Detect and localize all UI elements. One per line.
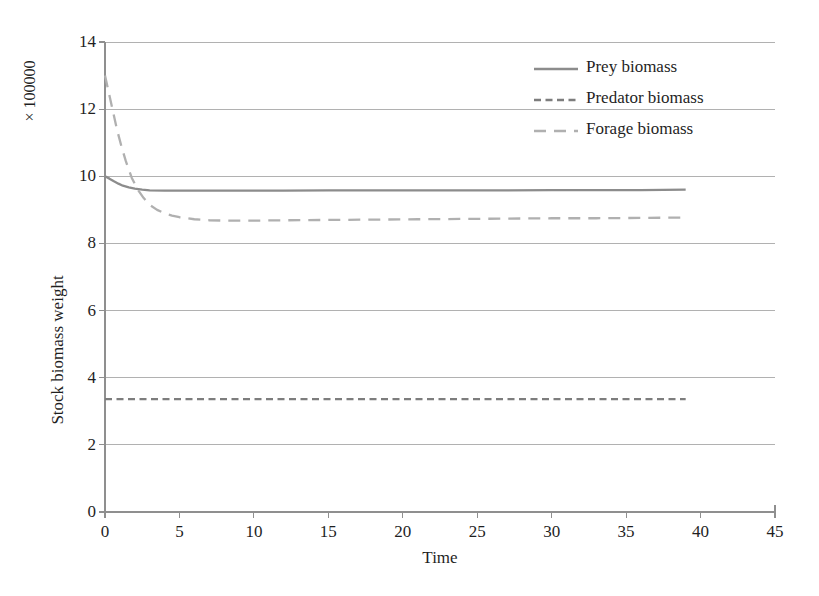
- x-tick-label: 20: [394, 522, 411, 542]
- y-tick-label: 10: [56, 166, 96, 186]
- y-tick-label: 14: [56, 32, 96, 52]
- x-tick-label: 40: [692, 522, 709, 542]
- y-axis-title: Stock biomass weight: [48, 220, 68, 480]
- x-tick-label: 45: [767, 522, 784, 542]
- legend-line-icon: [534, 61, 578, 73]
- legend-label: Predator biomass: [586, 88, 704, 108]
- x-tick-label: 30: [543, 522, 560, 542]
- x-tick-label: 10: [245, 522, 262, 542]
- chart-figure: 02468101214 051015202530354045 Stock bio…: [0, 0, 819, 596]
- legend-label: Forage biomass: [586, 119, 693, 139]
- x-tick-label: 25: [469, 522, 486, 542]
- y-axis-multiplier-label: × 100000: [21, 31, 39, 151]
- y-tick-label: 0: [56, 502, 96, 522]
- legend: Prey biomassPredator biomassForage bioma…: [534, 56, 704, 140]
- y-tick-label: 12: [56, 99, 96, 119]
- legend-item[interactable]: Predator biomass: [534, 87, 704, 109]
- x-tick-label: 15: [320, 522, 337, 542]
- x-tick-label: 0: [101, 522, 110, 542]
- legend-line-icon: [534, 92, 578, 104]
- series-line-prey-biomass: [105, 176, 686, 190]
- x-axis-title: Time: [105, 548, 775, 568]
- x-tick-label: 5: [175, 522, 184, 542]
- legend-line-icon: [534, 123, 578, 135]
- legend-item[interactable]: Forage biomass: [534, 118, 704, 140]
- legend-item[interactable]: Prey biomass: [534, 56, 704, 78]
- legend-label: Prey biomass: [586, 57, 677, 77]
- x-tick-label: 35: [618, 522, 635, 542]
